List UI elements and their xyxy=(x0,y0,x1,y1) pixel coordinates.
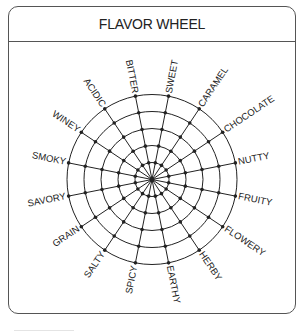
intersection-dot xyxy=(160,128,164,132)
intersection-dot xyxy=(207,140,211,144)
intersection-dot xyxy=(157,211,161,215)
label-flowery: FLOWERY xyxy=(223,223,269,259)
intersection-dot xyxy=(164,168,168,172)
intersection-dot xyxy=(184,184,188,188)
intersection-dot xyxy=(193,149,197,153)
intersection-dot xyxy=(122,135,126,139)
intersection-dot xyxy=(221,225,225,229)
label-fruity: FRUITY xyxy=(237,190,273,208)
intersection-dot xyxy=(140,128,144,132)
intersection-dot xyxy=(169,206,173,210)
intersection-dot xyxy=(67,161,71,165)
label-sweet: SWEET xyxy=(163,59,180,94)
label-nutty: NUTTY xyxy=(237,150,271,167)
intersection-dot xyxy=(80,225,84,229)
intersection-dot xyxy=(160,228,164,232)
intersection-dot xyxy=(94,215,98,219)
label-bitter: BITTER xyxy=(124,59,141,94)
label-herby: HERBY xyxy=(197,249,225,283)
label-salty: SALTY xyxy=(81,249,107,280)
intersection-dot xyxy=(154,161,158,165)
intersection-dot xyxy=(154,194,158,198)
label-winey: WINEY xyxy=(50,108,83,135)
intersection-dot xyxy=(131,206,135,210)
intersection-dot xyxy=(131,149,135,153)
label-acidic: ACIDIC xyxy=(81,76,108,109)
intersection-dot xyxy=(163,244,167,248)
intersection-dot xyxy=(134,174,138,178)
intersection-dot xyxy=(221,130,225,134)
label-earthy: EARTHY xyxy=(165,265,183,305)
intersection-dot xyxy=(137,111,141,115)
center-hub xyxy=(150,177,155,182)
intersection-dot xyxy=(197,248,201,252)
flavor-wheel-diagram: SWEETCARAMELCHOCOLATENUTTYFRUITYFLOWERYH… xyxy=(0,0,307,334)
footer-divider xyxy=(14,330,74,331)
intersection-dot xyxy=(147,161,151,165)
intersection-dot xyxy=(169,149,173,153)
intersection-dot xyxy=(122,220,126,224)
intersection-dot xyxy=(117,171,121,175)
label-chocolate: CHOCOLATE xyxy=(222,93,277,135)
intersection-dot xyxy=(179,135,183,139)
intersection-dot xyxy=(147,194,151,198)
intersection-dot xyxy=(144,144,148,148)
intersection-dot xyxy=(167,174,171,178)
intersection-dot xyxy=(160,192,164,196)
intersection-dot xyxy=(100,168,104,172)
intersection-dot xyxy=(112,121,116,125)
intersection-dot xyxy=(141,192,145,196)
intersection-dot xyxy=(167,181,171,185)
intersection-dot xyxy=(234,161,238,165)
intersection-dot xyxy=(80,130,84,134)
label-grain: GRAIN xyxy=(50,223,81,249)
intersection-dot xyxy=(144,211,148,215)
intersection-dot xyxy=(200,168,204,172)
intersection-dot xyxy=(100,188,104,192)
intersection-dot xyxy=(179,220,183,224)
label-spicy: SPICY xyxy=(123,264,139,295)
intersection-dot xyxy=(200,188,204,192)
intersection-dot xyxy=(141,164,145,168)
intersection-dot xyxy=(108,149,112,153)
intersection-dot xyxy=(234,194,238,198)
intersection-dot xyxy=(134,94,138,98)
intersection-dot xyxy=(217,191,221,195)
intersection-dot xyxy=(103,248,107,252)
intersection-dot xyxy=(178,159,182,163)
intersection-dot xyxy=(117,184,121,188)
intersection-dot xyxy=(207,215,211,219)
intersection-dot xyxy=(122,159,126,163)
label-smoky: SMOKY xyxy=(31,149,67,167)
intersection-dot xyxy=(167,261,171,265)
intersection-dot xyxy=(134,261,138,265)
intersection-dot xyxy=(157,144,161,148)
intersection-dot xyxy=(94,140,98,144)
label-caramel: CARAMEL xyxy=(195,65,230,109)
intersection-dot xyxy=(197,107,201,111)
intersection-dot xyxy=(188,234,192,238)
intersection-dot xyxy=(84,191,88,195)
intersection-dot xyxy=(178,197,182,201)
intersection-dot xyxy=(108,206,112,210)
intersection-dot xyxy=(136,187,140,191)
intersection-dot xyxy=(103,107,107,111)
intersection-dot xyxy=(122,197,126,201)
intersection-dot xyxy=(84,164,88,168)
intersection-dot xyxy=(136,168,140,172)
intersection-dot xyxy=(67,194,71,198)
intersection-dot xyxy=(167,94,171,98)
intersection-dot xyxy=(160,164,164,168)
intersection-dot xyxy=(112,234,116,238)
intersection-dot xyxy=(188,121,192,125)
label-savory: SAVORY xyxy=(26,190,67,208)
intersection-dot xyxy=(134,181,138,185)
intersection-dot xyxy=(140,228,144,232)
intersection-dot xyxy=(163,111,167,115)
intersection-dot xyxy=(137,244,141,248)
intersection-dot xyxy=(184,171,188,175)
intersection-dot xyxy=(164,187,168,191)
intersection-dot xyxy=(193,206,197,210)
intersection-dot xyxy=(217,164,221,168)
